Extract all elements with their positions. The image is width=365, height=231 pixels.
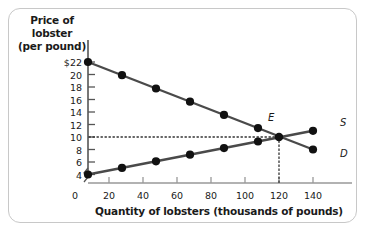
supply-point [84,170,92,178]
supply-point [309,127,317,135]
demand-point [186,98,194,106]
demand-point [84,58,92,66]
demand-point [220,111,228,119]
supply-point [254,137,262,145]
supply-point [118,164,126,172]
demand-point [152,84,160,92]
demand-point [254,124,262,132]
demand-point [309,145,317,153]
supply-point [186,151,194,159]
figure-container: Price of lobster (per pound) Quantity of… [0,0,365,231]
plot-area [0,0,365,231]
equilibrium-point [275,133,284,142]
supply-point [220,144,228,152]
supply-point [152,157,160,165]
demand-point [118,71,126,79]
